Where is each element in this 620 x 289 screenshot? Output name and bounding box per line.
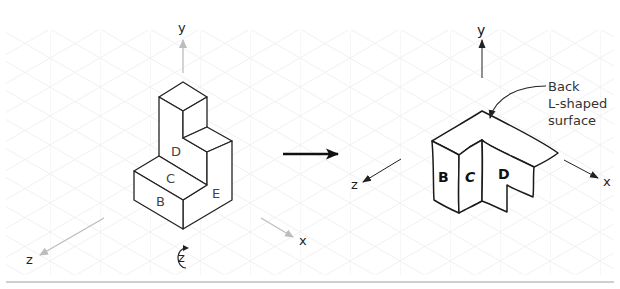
callout-line-3: surface — [548, 112, 607, 129]
left-face-d-label: D — [171, 145, 181, 158]
left-y-axis-label: y — [178, 21, 186, 34]
bottom-divider — [6, 281, 614, 283]
diagram-stage: y x z z D C B E y x z B C D Back L-shape… — [0, 0, 620, 289]
right-y-axis-label: y — [477, 23, 485, 37]
right-face-b-label: B — [438, 170, 449, 184]
left-x-axis-label: x — [299, 234, 307, 247]
diagram-canvas — [0, 0, 620, 289]
left-face-e-label: E — [212, 187, 220, 200]
right-face-c-label: C — [465, 170, 475, 184]
callout-line-1: Back — [548, 78, 607, 95]
right-face-d-label: D — [498, 167, 510, 181]
rotation-axis-label: z — [178, 251, 185, 264]
left-face-c-label: C — [166, 172, 175, 185]
callout-text: Back L-shaped surface — [548, 78, 607, 129]
right-z-axis-label: z — [351, 178, 358, 191]
right-x-axis-label: x — [603, 175, 611, 188]
left-z-axis-label: z — [26, 253, 33, 266]
left-face-b-label: B — [156, 195, 165, 208]
callout-line-2: L-shaped — [548, 95, 607, 112]
